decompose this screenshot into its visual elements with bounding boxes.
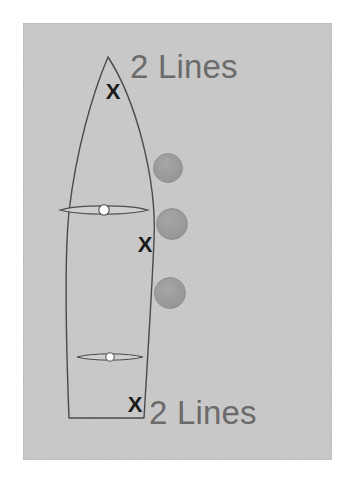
x-mark-nose: X <box>106 79 121 104</box>
circle-marker-middle <box>157 209 188 240</box>
label-two-lines-top: 2 Lines <box>130 48 238 85</box>
insert-hub-upper <box>99 205 109 215</box>
label-two-lines-bottom: 2 Lines <box>149 394 257 431</box>
x-mark-tail: X <box>128 392 143 417</box>
insert-hub-lower <box>106 353 114 361</box>
figure-root: X X X 2 Lines 2 Lines <box>0 0 352 482</box>
circle-marker-lower <box>155 278 186 309</box>
board-diagram-svg: X X X 2 Lines 2 Lines <box>0 0 352 482</box>
circle-marker-upper <box>154 154 183 183</box>
x-mark-middle: X <box>138 232 153 257</box>
